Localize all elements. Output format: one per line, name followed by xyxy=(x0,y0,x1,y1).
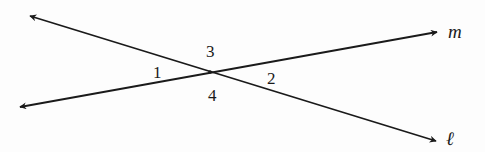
line-label-m: m xyxy=(448,21,462,42)
intersecting-lines-diagram: 1 2 3 4 m ℓ xyxy=(0,0,485,152)
intersection-point xyxy=(208,70,212,74)
line-l xyxy=(30,16,436,141)
line-label-l: ℓ xyxy=(446,128,454,149)
angle-label-1: 1 xyxy=(153,63,162,82)
diagram-canvas: 1 2 3 4 m ℓ xyxy=(0,0,485,152)
angle-label-4: 4 xyxy=(208,86,217,105)
angle-label-2: 2 xyxy=(267,69,276,88)
angle-label-3: 3 xyxy=(206,42,215,61)
line-m xyxy=(20,32,437,107)
